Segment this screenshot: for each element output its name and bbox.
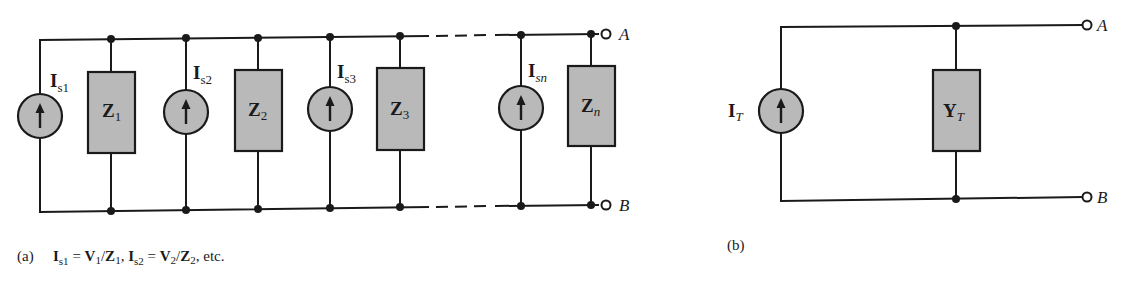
junction-node	[254, 34, 262, 42]
junction-node	[254, 205, 262, 213]
top-bus-wire-right	[496, 34, 598, 35]
terminal-a-label: A	[1096, 16, 1108, 35]
impedance-z1: Z1	[88, 35, 135, 215]
terminal-b	[1083, 193, 1092, 202]
circuit-figure: Is1 Z1 Is2 Z2	[0, 0, 1131, 297]
current-source-sn: Isn	[499, 31, 547, 210]
junction-node	[182, 206, 190, 214]
junction-node	[326, 33, 334, 41]
bottom-wire	[781, 133, 1082, 201]
impedance-zn: Zn	[568, 30, 615, 209]
terminal-a	[1083, 21, 1092, 30]
current-source-s2: Is2	[164, 34, 212, 214]
terminal-b	[602, 201, 611, 210]
junction-node	[952, 195, 960, 203]
junction-node	[396, 32, 404, 40]
source-label-s3: Is3	[337, 61, 356, 86]
current-source-s1: Is1	[18, 70, 69, 138]
current-source-s3: Is3	[308, 33, 356, 212]
current-source-it: IT	[728, 89, 803, 133]
panel-label-b: (b)	[727, 237, 745, 254]
junction-node	[517, 202, 525, 210]
panel-label-a: (a)	[17, 248, 34, 265]
junction-node	[587, 30, 595, 38]
junction-node	[952, 22, 960, 30]
junction-node	[182, 34, 190, 42]
circuit-a: Is1 Z1 Is2 Z2	[17, 25, 630, 267]
admittance-yt: YT	[933, 22, 980, 203]
source-label-it: IT	[728, 100, 743, 124]
junction-node	[107, 207, 115, 215]
circuit-b: IT YT A B (b)	[727, 16, 1108, 254]
junction-node	[107, 35, 115, 43]
caption-a: (a) Is1 = V1/Z1, Is2 = V2/Z2, etc.	[17, 247, 224, 267]
impedance-z3: Z3	[377, 32, 424, 211]
terminal-a	[602, 30, 611, 39]
source-label-s1: Is1	[50, 70, 69, 95]
terminal-b-label: B	[1097, 188, 1108, 207]
bottom-bus-wire-right	[496, 205, 598, 206]
source-label-s2: Is2	[193, 62, 212, 87]
source-label-sn: Isn	[528, 60, 547, 85]
junction-node	[396, 203, 404, 211]
impedance-z2: Z2	[235, 34, 282, 213]
terminal-a-label: A	[618, 25, 630, 44]
junction-node	[326, 204, 334, 212]
top-bus-dashed	[436, 35, 490, 36]
junction-node	[587, 201, 595, 209]
top-wire	[781, 25, 1082, 89]
junction-node	[517, 31, 525, 39]
terminal-b-label: B	[619, 196, 630, 215]
bottom-bus-dashed	[436, 206, 490, 207]
